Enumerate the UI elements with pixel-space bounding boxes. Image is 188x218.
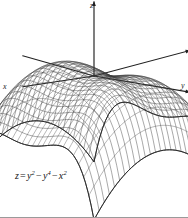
caption-minus-1: − (35, 170, 43, 181)
axis-label-z: z (90, 2, 93, 10)
axis-label-y: y (181, 82, 185, 90)
surface-plot-canvas (0, 0, 188, 218)
axis-label-x: x (3, 83, 7, 91)
caption-equals: = (19, 170, 27, 181)
caption-minus-2: − (51, 170, 59, 181)
surface-plot-figure: z x y z=y2−y4−x2 (0, 0, 188, 218)
equation-caption: z=y2−y4−x2 (15, 169, 67, 181)
surface-mesh (0, 61, 188, 218)
caption-term3-exponent: 2 (63, 169, 66, 176)
